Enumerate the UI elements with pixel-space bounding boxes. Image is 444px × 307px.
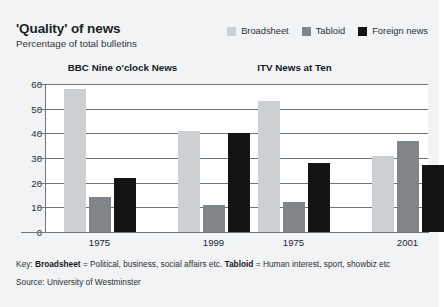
y-tick-mark bbox=[38, 133, 45, 134]
bar-tabloid bbox=[203, 205, 225, 232]
x-tick-label: 1975 bbox=[64, 237, 135, 248]
x-tick-label: 1999 bbox=[178, 237, 249, 248]
key-def-tabloid: = Human interest, sport, showbiz etc bbox=[253, 259, 390, 269]
legend-label: Foreign news bbox=[372, 26, 428, 36]
chart-header: 'Quality' of news Percentage of total bu… bbox=[0, 0, 439, 56]
bar-group bbox=[258, 84, 330, 232]
bar-broadsheet bbox=[258, 101, 280, 232]
bar-foreign-news bbox=[422, 165, 444, 232]
bar-foreign-news bbox=[308, 163, 330, 232]
chart-title: 'Quality' of news bbox=[16, 21, 121, 36]
legend-swatch-foreign-news bbox=[358, 27, 367, 36]
y-tick-mark bbox=[38, 84, 45, 85]
bar-broadsheet bbox=[64, 89, 86, 232]
x-tick-label: 1975 bbox=[258, 237, 329, 248]
x-axis-line bbox=[21, 232, 429, 233]
key-prefix: Key: bbox=[16, 259, 35, 269]
y-tick-mark bbox=[38, 158, 45, 159]
panel-title-bbc: BBC Nine o'clock News bbox=[50, 62, 195, 73]
x-tick-label: 2001 bbox=[372, 237, 443, 248]
source-line: Source: University of Westminster bbox=[16, 276, 431, 288]
legend-item: Tabloid bbox=[302, 26, 345, 36]
key-line: Key: Broadsheet = Political, business, s… bbox=[16, 258, 431, 270]
chart-legend: BroadsheetTabloidForeign news bbox=[227, 26, 428, 36]
y-tick-mark bbox=[38, 109, 45, 110]
bar-tabloid bbox=[397, 141, 419, 232]
y-axis-line bbox=[45, 84, 46, 233]
bar-group bbox=[64, 84, 136, 232]
legend-item: Broadsheet bbox=[227, 26, 289, 36]
bar-tabloid bbox=[283, 202, 305, 232]
plot-area bbox=[46, 84, 428, 232]
bar-broadsheet bbox=[178, 131, 200, 232]
legend-swatch-tabloid bbox=[302, 27, 311, 36]
chart-subtitle: Percentage of total bulletins bbox=[16, 38, 137, 49]
y-tick-mark bbox=[38, 183, 45, 184]
legend-swatch-broadsheet bbox=[227, 27, 236, 36]
y-tick-mark bbox=[38, 207, 45, 208]
bar-foreign-news bbox=[114, 178, 136, 232]
bar-broadsheet bbox=[372, 156, 394, 232]
key-term-broadsheet: Broadsheet bbox=[35, 259, 81, 269]
legend-label: Broadsheet bbox=[241, 26, 289, 36]
legend-item: Foreign news bbox=[358, 26, 428, 36]
bar-group bbox=[178, 84, 250, 232]
legend-label: Tabloid bbox=[316, 26, 345, 36]
bar-foreign-news bbox=[228, 133, 250, 232]
bar-group bbox=[372, 84, 444, 232]
key-term-tabloid: Tabloid bbox=[225, 259, 254, 269]
panel-title-itv: ITV News at Ten bbox=[222, 62, 367, 73]
key-def-broadsheet: = Political, business, social affairs et… bbox=[81, 259, 225, 269]
chart-footnotes: Key: Broadsheet = Political, business, s… bbox=[16, 258, 431, 288]
bar-tabloid bbox=[89, 197, 111, 232]
